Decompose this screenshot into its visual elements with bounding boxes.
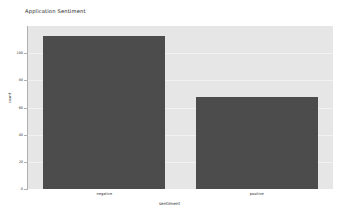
y-tick-label: 20 <box>8 160 23 164</box>
y-axis-label: count <box>8 78 12 118</box>
bar-negative <box>43 36 165 189</box>
y-tick-mark <box>24 162 27 163</box>
y-tick-label: 40 <box>8 133 23 137</box>
plot-area <box>28 26 333 189</box>
x-tick-label-negative: negative <box>96 192 112 196</box>
x-axis-label: sentiment <box>0 201 339 206</box>
bar-positive <box>196 97 318 189</box>
y-axis-spine <box>27 26 28 190</box>
y-tick-mark <box>24 108 27 109</box>
y-tick-mark <box>24 80 27 81</box>
y-tick-mark <box>24 189 27 190</box>
y-tick-mark <box>24 135 27 136</box>
y-tick-label: 100 <box>8 51 23 55</box>
chart-title: Application Sentiment <box>25 8 86 14</box>
bars-layer <box>28 26 333 189</box>
y-tick-label: 0 <box>8 187 23 191</box>
y-tick-mark <box>24 53 27 54</box>
chart-figure: Application Sentiment 020406080100 count… <box>0 0 339 216</box>
x-tick-label-positive: positive <box>250 192 264 196</box>
